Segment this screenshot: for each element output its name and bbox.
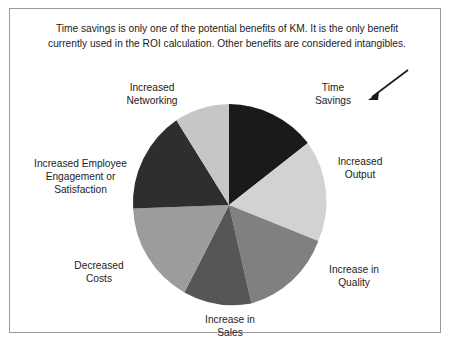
figure-frame: Time savings is only one of the potentia… xyxy=(9,8,441,333)
pie-label-decreased-costs-line-2: Costs xyxy=(60,272,138,285)
arrow-icon xyxy=(360,67,412,105)
pie-label-time-savings: Time Savings xyxy=(301,81,365,107)
pie-label-increase-in-quality-line-1: Increase in xyxy=(316,263,392,276)
pie-label-increased-networking: Increased Networking xyxy=(110,81,194,107)
pie-slices xyxy=(133,104,327,305)
pie-label-increase-in-sales-line-1: Increase in xyxy=(184,313,276,326)
pie-chart: Time Savings Increased Output Increase i… xyxy=(10,9,442,334)
pie-label-employee-engagement-line-1: Increased Employee xyxy=(18,157,143,170)
pie-label-increased-output-line-2: Output xyxy=(322,168,398,181)
pie-label-decreased-costs-line-1: Decreased xyxy=(60,259,138,272)
pie-label-employee-engagement: Increased Employee Engagement or Satisfa… xyxy=(18,157,143,197)
pie-label-increased-networking-line-1: Increased xyxy=(110,81,194,94)
pie-label-employee-engagement-line-2: Engagement or xyxy=(18,170,143,183)
pie-label-increased-output-line-1: Increased xyxy=(322,155,398,168)
pie-label-time-savings-line-1: Time xyxy=(301,81,365,94)
pie-label-increase-in-quality-line-2: Quality xyxy=(316,276,392,289)
pie-label-employee-engagement-line-3: Satisfaction xyxy=(18,183,143,196)
pie-label-decreased-costs: Decreased Costs xyxy=(60,259,138,285)
pie-label-increased-networking-line-2: Networking xyxy=(110,94,194,107)
pie-label-increased-output: Increased Output xyxy=(322,155,398,181)
pie-label-increase-in-sales: Increase in Sales xyxy=(184,313,276,339)
pie-label-time-savings-line-2: Savings xyxy=(301,94,365,107)
pie-label-increase-in-quality: Increase in Quality xyxy=(316,263,392,289)
pie-label-increase-in-sales-line-2: Sales xyxy=(184,326,276,339)
